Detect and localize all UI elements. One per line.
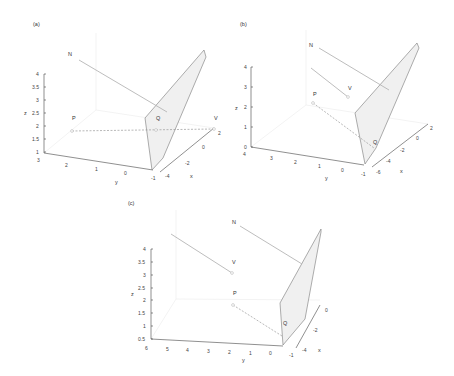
y-axis-label: y [242,357,245,363]
point-label-N: N [309,42,313,48]
y-tick-label: 5 [166,346,169,352]
z-axis-label: z [24,110,27,116]
point-label-P: P [233,290,237,296]
x-tick-label: 0 [202,144,205,150]
point-P [232,304,235,307]
y-tick-label: 3 [270,155,273,161]
x-axis-label: x [318,347,321,353]
point-V [347,96,350,99]
y-tick-label: 0 [269,350,272,356]
z-tick-label: 2 [36,123,39,129]
y-tick-label: 0 [124,170,127,176]
y-tick-label: 6 [145,345,148,351]
z-tick-label: 0 [244,144,247,150]
x-tick-label: 2 [430,125,433,131]
point-label-Q: Q [283,320,288,326]
point-label-V: V [214,115,218,121]
y-tick-label: 2 [294,159,297,165]
x-tick-label: -4 [302,347,307,353]
point-P [71,130,74,133]
y-tick-label: -1 [151,175,156,181]
point-V [213,128,216,131]
point-label-Q: Q [373,139,378,145]
y-tick-label: 1 [318,163,321,169]
z-tick-label: 4 [36,71,39,77]
x-tick-label: 2 [218,130,221,136]
line-P-to-V [72,129,214,131]
panel-c-label: (c) [128,200,135,206]
y-tick-label: 0 [341,167,344,173]
x-tick-label: -4 [386,158,391,164]
z-tick-label: 2 [244,104,247,110]
y-tick-label: 4 [243,151,246,157]
y-tick-label: 4 [186,347,189,353]
point-Q [155,129,158,132]
normal-vector-N [79,60,167,112]
x-axis-label: x [400,168,403,174]
y-tick-label: 1 [95,166,98,172]
y-axis-label: y [325,175,328,181]
x-tick-label: -2 [185,160,190,166]
z-tick-label: 1 [143,323,146,329]
grid-line [151,299,176,339]
point-label-V: V [348,85,352,91]
point-label-Q: Q [156,115,161,121]
x-axis-label: x [190,173,193,179]
panel-c: (c) 0.5 1 1.5 2 2.5 3 3.5 4 z 6 5 4 3 2 … [128,200,328,363]
vector-V [171,234,232,273]
x-tick-label: -4 [165,173,170,179]
x-tick-label: -2 [313,327,318,333]
panel-a-label: (a) [33,21,40,27]
point-label-N: N [232,219,236,225]
y-axis-label: y [115,179,118,185]
z-tick-label: 1.5 [32,136,39,142]
z-tick-label: 3.5 [32,84,39,90]
grid-line [251,105,306,147]
normal-vector-N [240,226,302,264]
figure-canvas: (a) 1 1.5 2 2.5 3 3.5 4 z 3 2 1 0 -1 y -… [0,0,454,376]
z-tick-label: 0.5 [138,336,145,342]
y-tick-label: 3 [207,348,210,354]
y-tick-label: -1 [289,352,294,358]
panel-a: (a) 1 1.5 2 2.5 3 3.5 4 z 3 2 1 0 -1 y -… [24,21,221,185]
panel-b: (b) 0 1 2 3 4 z 4 3 2 1 0 -1 y -6 -4 -2 … [235,21,433,181]
y-axis [251,147,364,165]
plane [145,50,206,170]
x-tick-label: -6 [376,169,381,175]
point-P [312,102,315,105]
normal-vector-N [319,48,389,90]
point-V [231,272,234,275]
x-tick-label: 0 [325,307,328,313]
z-tick-label: 3.5 [138,259,145,265]
y-tick-label: 2 [228,349,231,355]
y-axis [151,339,283,346]
z-tick-label: 1 [244,124,247,130]
point-label-N: N [68,51,72,57]
panel-b-label: (b) [240,21,247,27]
z-tick-label: 3 [244,84,247,90]
grid-line [44,110,96,153]
z-tick-label: 3 [36,97,39,103]
z-tick-label: 1 [36,149,39,155]
y-tick-label: 3 [37,157,40,163]
x-tick-label: -2 [400,147,405,153]
z-tick-label: 2 [143,297,146,303]
plane [355,43,419,164]
z-tick-label: 4 [143,246,146,252]
point-label-P: P [72,115,76,121]
y-axis [44,153,153,170]
z-tick-label: 2.5 [32,110,39,116]
y-tick-label: 2 [65,162,68,168]
y-tick-label: -1 [361,171,366,177]
y-tick-label: 1 [249,350,252,356]
z-tick-label: 2.5 [138,285,145,291]
x-tick-label: 0 [416,135,419,141]
z-axis-label: z [131,291,134,297]
z-tick-label: 1.5 [138,310,145,316]
z-tick-label: 4 [244,64,247,70]
z-tick-label: 3 [143,272,146,278]
point-label-V: V [232,259,236,265]
z-axis-label: z [235,105,238,111]
line-P-to-Q [233,305,282,336]
point-label-P: P [313,91,317,97]
